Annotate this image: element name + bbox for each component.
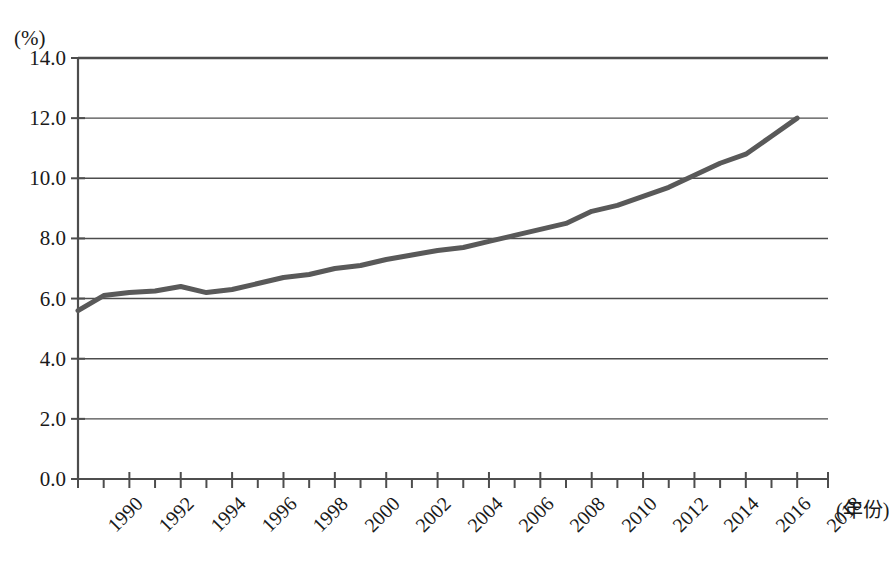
y-tick-label: 4.0 bbox=[4, 349, 66, 370]
y-tick-label: 12.0 bbox=[4, 108, 66, 129]
y-tick-label: 6.0 bbox=[4, 289, 66, 310]
y-tick-label: 2.0 bbox=[4, 409, 66, 430]
y-tick-label: 8.0 bbox=[4, 228, 66, 249]
x-axis-title: (年份) bbox=[836, 500, 889, 520]
y-tick-label: 14.0 bbox=[4, 48, 66, 69]
y-tick-label: 0.0 bbox=[4, 469, 66, 490]
gridlines bbox=[78, 58, 828, 419]
data-series-line bbox=[78, 118, 797, 310]
y-tick-label: 10.0 bbox=[4, 168, 66, 189]
